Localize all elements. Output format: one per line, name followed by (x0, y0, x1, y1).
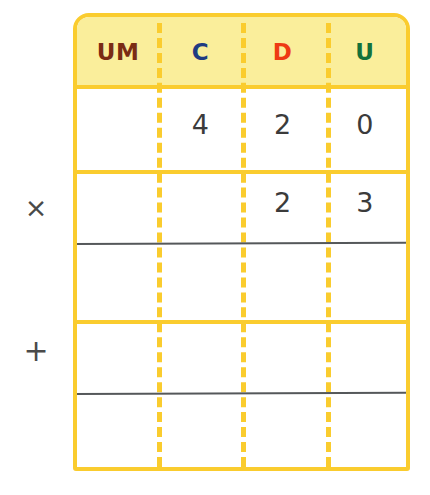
cell-row2-um[interactable] (77, 189, 159, 216)
column-header-d: D (242, 17, 324, 85)
table-body: 4 2 0 2 3 (77, 89, 406, 467)
column-header-u: U (324, 17, 406, 85)
table-row: 2 3 (77, 189, 406, 216)
cell-row1-um[interactable] (77, 111, 159, 138)
cell-row2-u[interactable]: 3 (324, 189, 406, 216)
multiplication-operator-sign: × (16, 194, 56, 221)
table-row: 4 2 0 (77, 111, 406, 138)
multiplication-worksheet: × + UM C D U 4 2 0 (0, 0, 430, 495)
cell-row2-d[interactable]: 2 (242, 189, 324, 216)
column-header-c: C (159, 17, 241, 85)
cell-row1-c[interactable]: 4 (159, 111, 241, 138)
column-header-um: UM (77, 17, 159, 85)
cell-row1-u[interactable]: 0 (324, 111, 406, 138)
addition-operator-sign: + (16, 336, 56, 366)
cell-row1-d[interactable]: 2 (242, 111, 324, 138)
cell-row2-c[interactable] (159, 189, 241, 216)
place-value-table: UM C D U 4 2 0 2 (73, 13, 410, 471)
